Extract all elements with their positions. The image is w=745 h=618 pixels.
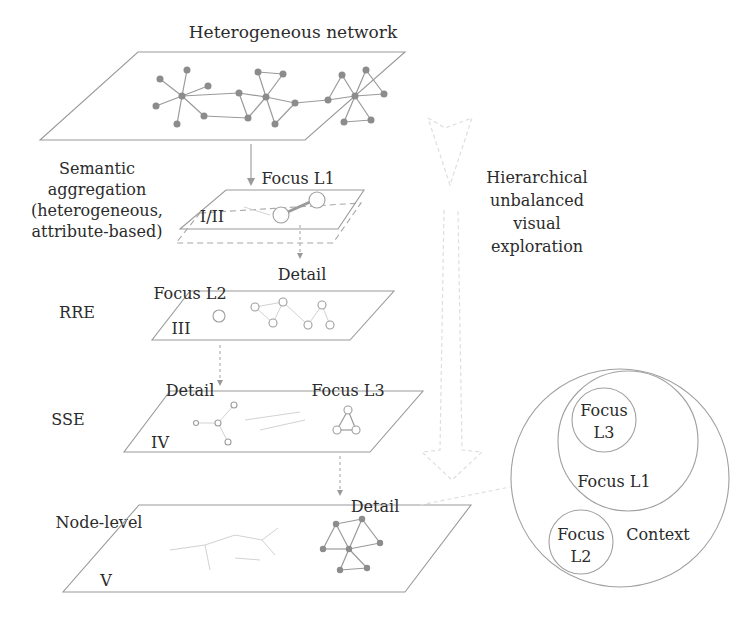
detail2-label: Detail — [166, 381, 215, 400]
level1-label-line4: attribute-based) — [32, 222, 163, 241]
level4-roman: IV — [151, 433, 169, 452]
arrowhead-icon — [337, 490, 343, 496]
venn-focus-l2-line2: L2 — [571, 547, 592, 566]
level1-label-line1: Semantic — [59, 159, 135, 178]
aggregated-graph — [244, 192, 325, 223]
arrowhead-icon — [247, 178, 255, 186]
rre-graph — [213, 298, 334, 329]
venn-focus-l3-line1: Focus — [580, 401, 627, 420]
venn-focus-l2-line1: Focus — [557, 525, 604, 544]
plane-network — [40, 52, 405, 140]
sse-graph — [194, 402, 361, 445]
node-level-graph — [170, 516, 383, 573]
level4-label: SSE — [51, 410, 84, 429]
level5-roman: V — [99, 571, 112, 590]
arrowhead-icon — [297, 253, 303, 259]
detail3-label: Detail — [351, 497, 400, 516]
side-note-line2: unbalanced — [490, 191, 584, 210]
level3-label: RRE — [59, 303, 95, 322]
arrowhead-icon — [217, 380, 223, 386]
focus-l2-label: Focus L2 — [153, 284, 226, 303]
level3-roman: III — [172, 319, 191, 338]
venn-focus-l1-label: Focus L1 — [577, 472, 650, 491]
network-graph — [153, 67, 388, 128]
level1-label-line2: aggregation — [48, 180, 146, 199]
diagram-canvas: Heterogeneous network — [0, 0, 745, 618]
focus-l3-circle — [572, 388, 636, 452]
level1-roman: I/II — [200, 207, 224, 226]
side-note-line4: exploration — [491, 237, 583, 256]
venn-focus-l3-line2: L3 — [594, 423, 615, 442]
title: Heterogeneous network — [189, 22, 398, 42]
focus-l3-label: Focus L3 — [311, 381, 384, 400]
detail1-label: Detail — [278, 265, 327, 284]
venn-context-label: Context — [626, 525, 690, 544]
level1-label-line3: (heterogeneous, — [31, 201, 163, 220]
focus-l1-label: Focus L1 — [261, 169, 334, 188]
side-note-line1: Hierarchical — [486, 168, 587, 187]
side-note-line3: visual — [512, 214, 560, 233]
